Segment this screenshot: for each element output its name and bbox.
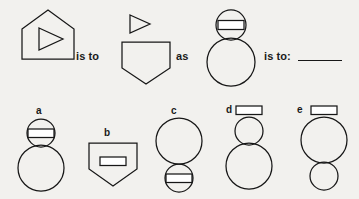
small-circle-shape bbox=[310, 162, 338, 190]
option-b-icon bbox=[84, 140, 142, 198]
stem-term-c-figure bbox=[200, 6, 262, 90]
horizontal-bar-outside-above-shape bbox=[236, 106, 262, 115]
triangle-pointing-right-inner-shape bbox=[39, 28, 63, 50]
option-c-figure[interactable] bbox=[148, 114, 210, 196]
connector-is-to-first: is to bbox=[76, 51, 99, 62]
connector-is-to-second: is to: bbox=[264, 51, 291, 62]
option-a-figure[interactable] bbox=[10, 118, 72, 194]
option-e-figure[interactable] bbox=[294, 104, 358, 196]
option-b-label: b bbox=[104, 128, 110, 138]
large-circle-shape bbox=[301, 117, 347, 163]
option-c-icon bbox=[148, 114, 210, 196]
large-circle-shape bbox=[226, 143, 272, 189]
house-pentagon-with-inner-triangle-icon bbox=[18, 8, 82, 64]
analogy-puzzle: is to as is to: a b c bbox=[0, 0, 359, 199]
triangle-pointing-right-outer-shape bbox=[130, 15, 150, 33]
small-circle-shape bbox=[235, 117, 263, 145]
pentagon-flat-top-point-bottom-shape bbox=[122, 42, 170, 84]
pentagon-peaked-roof-shape bbox=[22, 10, 74, 59]
stem-term-b-figure bbox=[116, 8, 180, 86]
option-b-figure[interactable] bbox=[84, 140, 142, 198]
small-circle-with-bar-over-large-circle-icon bbox=[200, 6, 262, 90]
horizontal-bar-inside-shape bbox=[218, 21, 244, 30]
option-a-icon bbox=[10, 118, 72, 194]
horizontal-bar-inside-shape bbox=[28, 129, 54, 138]
large-circle-shape bbox=[18, 145, 64, 191]
option-d-figure[interactable] bbox=[222, 104, 286, 192]
large-circle-shape bbox=[156, 118, 202, 164]
horizontal-bar-outside-above-shape bbox=[311, 106, 337, 115]
stem-term-a-figure bbox=[18, 8, 82, 64]
option-d-icon bbox=[222, 104, 286, 192]
option-a-label: a bbox=[36, 106, 42, 116]
horizontal-bar-inside-shape bbox=[166, 174, 192, 183]
horizontal-bar-inside-shape bbox=[100, 157, 126, 166]
answer-blank-line[interactable] bbox=[298, 60, 342, 61]
connector-as: as bbox=[176, 51, 188, 62]
inverted-pentagon-with-outer-triangle-icon bbox=[116, 8, 180, 86]
option-e-icon bbox=[294, 104, 358, 196]
large-circle-shape bbox=[207, 38, 255, 86]
